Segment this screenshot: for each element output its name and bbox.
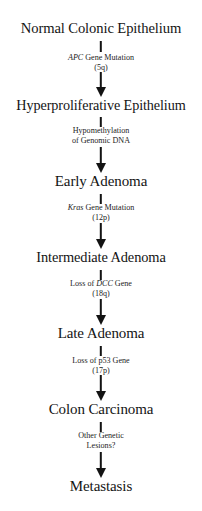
edge-locus-apc: (5q) xyxy=(0,63,202,73)
node-metastasis: Metastasis xyxy=(0,478,202,495)
node-label: Late Adenoma xyxy=(58,325,145,341)
edge-gene-dcc: DCC xyxy=(96,279,113,288)
edge-locus-other: Lesions? xyxy=(0,441,202,451)
edge-label-other-genetic-lesions: Other Genetic Lesions? xyxy=(0,431,202,450)
edge-stub-apc xyxy=(100,41,102,52)
edge-label-apc: APC Gene Mutation (5q) xyxy=(0,53,202,72)
node-label: Early Adenoma xyxy=(55,173,147,189)
node-label: Intermediate Adenoma xyxy=(36,249,165,265)
arrow-normal-to-hyperproliferative xyxy=(94,72,108,97)
edge-label-suffix: Gene Mutation xyxy=(83,53,134,62)
edge-label-kras: Kras Gene Mutation (12p) xyxy=(0,203,202,222)
arrow-early-to-intermediate-adenoma xyxy=(94,223,108,249)
node-normal-colonic-epithelium: Normal Colonic Epithelium xyxy=(0,20,202,37)
edge-label-prefix: Loss of xyxy=(70,279,96,288)
edge-label-suffix: Loss of p53 Gene xyxy=(72,356,129,365)
edge-locus-dcc: (18q) xyxy=(0,289,202,299)
edge-label-suffix: Gene xyxy=(113,279,132,288)
node-early-adenoma: Early Adenoma xyxy=(0,173,202,190)
edge-locus-hypomethylation: of Genomic DNA xyxy=(0,136,202,146)
node-label: Hyperproliferative Epithelium xyxy=(16,97,185,113)
edge-label-suffix: Hypomethylation xyxy=(73,126,130,135)
edge-locus-kras: (12p) xyxy=(0,213,202,223)
edge-label-p53: Loss of p53 Gene (17p) xyxy=(0,356,202,375)
arrow-hyperproliferative-to-early-adenoma xyxy=(94,147,108,173)
node-label: Metastasis xyxy=(70,478,132,494)
edge-gene-kras: Kras xyxy=(68,203,84,212)
arrow-late-adenoma-to-colon-carcinoma xyxy=(94,375,108,401)
node-colon-carcinoma: Colon Carcinoma xyxy=(0,401,202,418)
node-label: Colon Carcinoma xyxy=(49,401,154,417)
pathway-diagram: Normal Colonic Epithelium APC Gene Mutat… xyxy=(0,0,202,511)
edge-locus-p53: (17p) xyxy=(0,366,202,376)
arrow-carcinoma-to-metastasis xyxy=(94,452,108,478)
node-late-adenoma: Late Adenoma xyxy=(0,325,202,342)
edge-stub-p53 xyxy=(100,346,102,356)
node-intermediate-adenoma: Intermediate Adenoma xyxy=(0,249,202,266)
edge-label-suffix: Other Genetic xyxy=(78,431,124,440)
edge-gene-apc: APC xyxy=(68,53,83,62)
node-hyperproliferative-epithelium: Hyperproliferative Epithelium xyxy=(0,97,202,114)
edge-label-suffix: Gene Mutation xyxy=(83,203,134,212)
edge-label-hypomethylation: Hypomethylation of Genomic DNA xyxy=(0,126,202,145)
edge-label-dcc: Loss of DCC Gene (18q) xyxy=(0,279,202,298)
arrow-intermediate-to-late-adenoma xyxy=(94,299,108,325)
node-label: Normal Colonic Epithelium xyxy=(21,20,181,36)
